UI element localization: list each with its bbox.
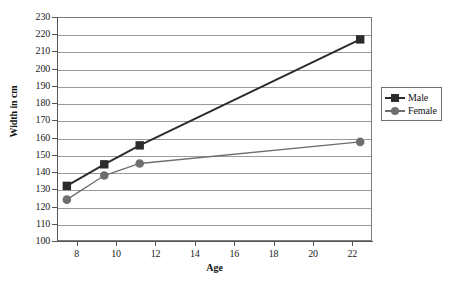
y-axis-tick-label: 120: [4, 202, 50, 212]
y-axis-tick: [52, 86, 58, 87]
y-axis-tick: [52, 224, 58, 225]
chart-legend: Male Female: [381, 87, 442, 121]
y-axis-tick: [52, 138, 58, 139]
gridline: [58, 208, 371, 209]
y-axis-tick: [52, 189, 58, 190]
y-axis-tick: [52, 155, 58, 156]
x-axis-title: Age: [57, 262, 372, 273]
square-marker-icon: [385, 92, 405, 104]
gridline: [58, 104, 371, 105]
x-axis-tick-label: 8: [57, 248, 97, 259]
y-axis-tick-label: 140: [4, 167, 50, 177]
gridline: [58, 139, 371, 140]
gridline: [58, 121, 371, 122]
y-axis-title: Width in cm: [8, 67, 19, 157]
gridline: [58, 190, 371, 191]
x-axis-tick-label: 14: [175, 248, 215, 259]
x-axis-tick: [195, 241, 196, 246]
x-axis-tick: [116, 241, 117, 246]
y-axis-tick: [52, 34, 58, 35]
x-axis-tick: [155, 241, 156, 246]
y-axis-tick: [52, 51, 58, 52]
x-axis-line: [57, 241, 373, 242]
legend-label-female: Female: [405, 105, 437, 116]
circle-marker-icon: [385, 105, 405, 117]
legend-label-male: Male: [405, 92, 428, 103]
x-axis-tick: [313, 241, 314, 246]
y-axis-tick-label: 130: [4, 184, 50, 194]
x-axis-tick: [77, 241, 78, 246]
y-axis-tick-label: 230: [4, 12, 50, 22]
y-axis-tick: [52, 120, 58, 121]
gridline: [58, 70, 371, 71]
y-axis-tick: [52, 103, 58, 104]
x-axis-tick: [234, 241, 235, 246]
x-axis-tick-label: 12: [135, 248, 175, 259]
legend-item-male: Male: [385, 91, 437, 104]
y-axis-tick: [52, 69, 58, 70]
gridline: [58, 156, 371, 157]
x-axis-tick-label: 16: [214, 248, 254, 259]
y-axis-tick-label: 220: [4, 29, 50, 39]
x-axis-tick-label: 10: [96, 248, 136, 259]
x-axis-tick: [352, 241, 353, 246]
y-axis-tick-label: 110: [4, 219, 50, 229]
gridline: [58, 35, 371, 36]
x-axis-tick-label: 20: [293, 248, 333, 259]
gridline: [58, 173, 371, 174]
x-axis-tick: [274, 241, 275, 246]
gridline: [58, 87, 371, 88]
chart-figure: 1001101201301401501601701801902002102202…: [0, 0, 457, 282]
plot-area: [57, 17, 372, 241]
gridline: [58, 225, 371, 226]
y-axis-tick: [52, 172, 58, 173]
y-axis-tick: [52, 17, 58, 18]
y-axis-tick: [52, 207, 58, 208]
y-axis-tick-label: 210: [4, 46, 50, 56]
gridlines: [58, 18, 371, 240]
gridline: [58, 52, 371, 53]
legend-item-female: Female: [385, 104, 437, 117]
y-axis-tick-label: 100: [4, 236, 50, 246]
x-axis-tick-label: 18: [254, 248, 294, 259]
x-axis-tick-label: 22: [332, 248, 372, 259]
